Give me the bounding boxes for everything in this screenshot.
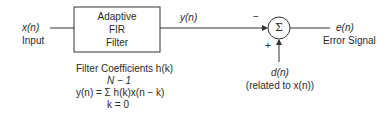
equation-title: Filter Coefficients h(k) [76,63,173,74]
minus-sign: − [253,11,259,22]
filter-block-line2: FIR [74,24,160,35]
sigma-symbol: Σ [268,22,290,33]
desired-signal-note: (related to x(n)) [230,80,330,91]
equation-upper-limit: N − 1 [107,75,131,86]
equation-formula: y(n) = Σ h(k)x(n − k) [76,87,164,98]
filter-block-line3: Filter [74,37,160,48]
plus-sign: + [265,40,271,51]
filter-output-signal-label: y(n) [180,12,197,23]
error-signal-label: e(n) [336,22,354,33]
error-label: Error Signal [323,35,376,46]
filter-block-line1: Adaptive [74,11,160,22]
desired-signal-label: d(n) [240,67,320,78]
input-label: Input [22,35,44,46]
input-signal-label: x(n) [22,22,39,33]
equation-lower-limit: k = 0 [107,99,129,110]
